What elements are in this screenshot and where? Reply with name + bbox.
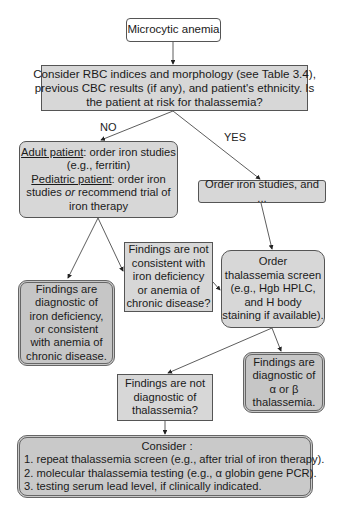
node-line: diagnostic of	[253, 369, 316, 382]
node-line: chronic disease.	[26, 350, 107, 363]
arrow-iron-to-diag	[68, 218, 98, 278]
node-consider-final: Consider : 1. repeat thalassemia screen …	[17, 435, 313, 498]
arrow-notconsistent-to-thal	[213, 282, 220, 290]
adult-label: Adult patient	[21, 146, 83, 158]
arrow-thal-to-diagthal	[272, 328, 281, 351]
pediatric-text: : order iron	[112, 173, 166, 185]
node-line: diagnostic of	[35, 296, 98, 309]
pediatric-line-2: studies or recommend trial of	[26, 186, 170, 199]
consider-item: 1. repeat thalassemia screen (e.g., afte…	[24, 453, 324, 466]
adult-example: (e.g., ferritin)	[67, 159, 130, 172]
node-consider-rbc: Consider RBC indices and morphology (see…	[41, 65, 308, 111]
node-line: iron deficiency,	[30, 310, 104, 323]
node-line: diagnostic of	[134, 391, 197, 404]
node-line: consistent with	[132, 257, 205, 270]
consider-item: 3. testing serum lead level, if clinical…	[24, 480, 262, 493]
node-line: Findings are	[253, 356, 315, 369]
node-order-iron-studies-no: Adult patient: order iron studies (e.g.,…	[19, 141, 178, 218]
node-order-iron-studies-yes: Order iron studies, and ...	[198, 180, 326, 203]
adult-line: Adult patient: order iron studies	[21, 146, 176, 159]
node-not-consistent: Findings are not consistent with iron de…	[124, 242, 213, 312]
node-line: Findings are not	[125, 377, 205, 390]
arrow-iron-to-notconsistent	[98, 218, 123, 271]
node-line: (e.g., Hgb HPLC,	[230, 282, 315, 295]
node-line: thalassemia screen	[225, 269, 321, 282]
node-line: Findings are not	[128, 243, 208, 256]
node-line: staining if available).	[222, 309, 323, 322]
pediatric-line: Pediatric patient: order iron	[31, 173, 165, 186]
text: studies	[26, 186, 65, 198]
node-line: or consistent	[35, 323, 98, 336]
node-label: Microcytic anemia	[127, 23, 219, 36]
branch-label-no: NO	[100, 121, 117, 133]
arrow-ironyes-to-thal	[261, 203, 272, 249]
node-label: Order iron studies, and ...	[199, 178, 325, 205]
node-line: thalassemia?	[132, 404, 198, 417]
node-line: previous CBC results (if any), and patie…	[35, 81, 315, 95]
node-microcytic-anemia: Microcytic anemia	[126, 18, 221, 42]
node-line: thalassemia.	[253, 396, 316, 409]
node-diagnostic-iron-deficiency: Findings are diagnostic of iron deficien…	[18, 280, 115, 366]
node-line: or anemia of	[137, 284, 199, 297]
node-line: Order	[259, 255, 288, 268]
consider-title: Consider :	[142, 440, 193, 453]
node-line: iron deficiency	[133, 270, 205, 283]
node-order-thalassemia-screen: Order thalassemia screen (e.g., Hgb HPLC…	[221, 250, 325, 328]
consider-item: 2. molecular thalassemia testing (e.g., …	[24, 467, 317, 480]
pediatric-label: Pediatric patient	[31, 173, 111, 185]
adult-text: : order iron studies	[83, 146, 176, 158]
pediatric-line-3: iron therapy	[69, 200, 128, 213]
or-italic: or	[65, 186, 75, 198]
node-line: α or β	[269, 383, 298, 396]
node-line: with anemia of	[30, 336, 102, 349]
text: recommend trial of	[75, 186, 171, 198]
node-not-diagnostic-thalassemia: Findings are not diagnostic of thalassem…	[117, 374, 213, 421]
arrow-yes	[173, 111, 260, 179]
node-line: and H body	[244, 296, 301, 309]
node-diagnostic-thalassemia: Findings are diagnostic of α or β thalas…	[243, 352, 325, 413]
node-line: Findings are	[36, 283, 98, 296]
node-line: Consider RBC indices and morphology (see…	[33, 67, 316, 81]
branch-label-yes: YES	[224, 131, 246, 143]
node-line: the patient at risk for thalassemia?	[86, 95, 263, 109]
node-line: chronic disease?	[127, 297, 211, 310]
